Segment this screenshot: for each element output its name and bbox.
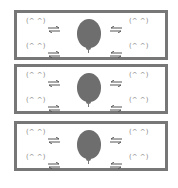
face-top-right: (^ ^) (129, 71, 148, 79)
equilibrium-arrows-icon (110, 97, 122, 104)
equilibrium-arrows-icon (48, 18, 60, 25)
face-top-left: (^ ^) (26, 71, 45, 79)
face-bottom-right: (^ ^) (129, 153, 148, 161)
equilibrium-arrows-icon (48, 97, 60, 104)
panel-2: (^ ^) (^ ^) (^ ^) (^ ^) (14, 64, 168, 114)
equilibrium-arrows-icon (110, 43, 122, 50)
balloon-string (88, 102, 89, 107)
face-top-left: (^ ^) (26, 128, 45, 136)
equilibrium-arrows-icon (48, 154, 60, 161)
equilibrium-arrows-icon (48, 129, 60, 136)
face-top-right: (^ ^) (129, 17, 148, 25)
panel-1: (^ ^) (^ ^) (^ ^) (^ ^) (14, 10, 168, 60)
face-top-left: (^ ^) (26, 17, 45, 25)
panel-3: (^ ^) (^ ^) (^ ^) (^ ^) (14, 121, 168, 171)
balloon-string (88, 159, 89, 164)
face-bottom-left: (^ ^) (26, 42, 45, 50)
balloon-icon (77, 130, 101, 159)
equilibrium-arrows-icon (110, 18, 122, 25)
face-bottom-right: (^ ^) (129, 42, 148, 50)
equilibrium-arrows-icon (110, 129, 122, 136)
balloon-icon (77, 19, 101, 48)
balloon-string (88, 48, 89, 53)
equilibrium-arrows-icon (110, 72, 122, 79)
face-bottom-left: (^ ^) (26, 96, 45, 104)
face-bottom-left: (^ ^) (26, 153, 45, 161)
face-top-right: (^ ^) (129, 128, 148, 136)
face-bottom-right: (^ ^) (129, 96, 148, 104)
equilibrium-arrows-icon (110, 154, 122, 161)
balloon-icon (77, 73, 101, 102)
equilibrium-arrows-icon (48, 72, 60, 79)
equilibrium-arrows-icon (48, 43, 60, 50)
